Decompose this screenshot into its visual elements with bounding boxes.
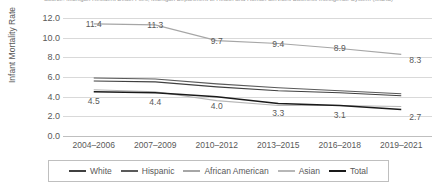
series-line-total	[94, 92, 402, 110]
legend-label: African American	[204, 166, 268, 176]
legend-swatch-icon	[183, 170, 200, 172]
infant-mortality-line-chart: Source: Michigan Resident Death Files, M…	[0, 0, 437, 192]
y-axis-tick-labels: 12.010.08.06.04.02.00.0	[16, 14, 60, 142]
series-lines	[63, 18, 432, 136]
legend-item-white[interactable]: White	[69, 166, 112, 176]
data-label: 3.1	[334, 110, 346, 120]
x-tick-label: 2013–2015	[248, 140, 310, 154]
y-tick-label: 6.0	[16, 73, 60, 82]
legend-label: Hispanic	[142, 166, 175, 176]
data-label: 8.3	[409, 55, 421, 65]
data-label: 4.0	[211, 101, 223, 111]
legend-swatch-icon	[278, 170, 295, 172]
y-tick-label: 0.0	[16, 132, 60, 141]
data-label: 9.7	[211, 36, 223, 46]
y-tick-label: 2.0	[16, 112, 60, 121]
data-label: 3.3	[272, 108, 284, 118]
x-axis-tick-labels: 2004–20062007–20092010–20122013–20152016…	[63, 140, 432, 154]
x-tick-label: 2016–2018	[309, 140, 371, 154]
series-line-african-american	[94, 24, 402, 54]
legend-swatch-icon	[329, 170, 346, 172]
data-label: 4.4	[149, 97, 161, 107]
x-axis-line	[63, 136, 432, 137]
series-line-white	[94, 81, 402, 96]
legend-label: Asian	[299, 166, 320, 176]
y-tick-label: 10.0	[16, 33, 60, 42]
x-tick-label: 2019–2021	[371, 140, 433, 154]
legend-swatch-icon	[121, 170, 138, 172]
legend-item-asian[interactable]: Asian	[278, 166, 320, 176]
y-tick-label: 4.0	[16, 92, 60, 101]
legend-swatch-icon	[69, 170, 86, 172]
legend-item-african-american[interactable]: African American	[183, 166, 268, 176]
plot-area: 11.411.39.79.48.98.34.54.44.03.33.12.7	[63, 18, 432, 136]
y-tick-label: 12.0	[16, 14, 60, 23]
legend-item-hispanic[interactable]: Hispanic	[121, 166, 175, 176]
legend-item-total[interactable]: Total	[329, 166, 368, 176]
data-label: 4.5	[88, 96, 100, 106]
x-tick-label: 2004–2006	[63, 140, 125, 154]
data-label: 11.4	[86, 19, 102, 29]
x-tick-label: 2010–2012	[186, 140, 248, 154]
legend-label: Total	[350, 166, 368, 176]
legend-label: White	[90, 166, 112, 176]
y-tick-label: 8.0	[16, 53, 60, 62]
data-label: 2.7	[409, 112, 421, 122]
x-tick-label: 2007–2009	[125, 140, 187, 154]
data-label: 9.4	[272, 39, 284, 49]
chart-title: Source: Michigan Resident Death Files, M…	[0, 0, 437, 2]
data-label: 8.9	[334, 43, 346, 53]
data-label: 11.3	[147, 20, 163, 30]
chart-legend: WhiteHispanicAfrican AmericanAsianTotal	[48, 160, 389, 182]
